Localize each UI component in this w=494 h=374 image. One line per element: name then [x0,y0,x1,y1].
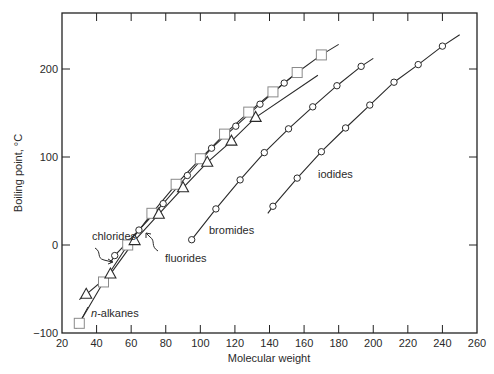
series-line-fluorides [79,75,318,299]
plot-frame [62,13,477,333]
x-tick-label: 180 [329,337,347,349]
triangle-marker [81,288,92,298]
y-tick-label: 200 [40,63,58,75]
circle-marker [310,104,316,110]
label-iodides: iodides [318,168,353,180]
circle-marker [208,145,214,151]
circle-marker [439,43,445,49]
series-lines [76,35,460,329]
square-marker [292,68,302,78]
x-axis-title: Molecular weight [228,352,311,364]
circle-marker [334,83,340,89]
square-marker [220,129,230,139]
x-tick-label: 100 [191,337,209,349]
x-tick-label: 80 [160,337,172,349]
circle-marker [213,206,219,212]
y-tick-label: −100 [33,327,58,339]
square-marker [268,87,278,97]
x-tick-label: 140 [260,337,278,349]
circle-marker [391,79,397,85]
chart-svg: 20406080100120140160180200220240260−1000… [0,0,494,374]
circle-marker [112,252,118,258]
series-line-n-alkanes [76,44,339,328]
y-tick-label: 0 [52,239,58,251]
circle-marker [358,63,364,69]
y-tick-label: 100 [40,151,58,163]
label-bromides: bromides [209,224,255,236]
circle-marker [285,126,291,132]
x-tick-label: 60 [125,337,137,349]
n-alkanes-leader [82,307,88,318]
x-tick-label: 120 [226,337,244,349]
circle-marker [233,123,239,129]
x-tick-label: 260 [468,337,486,349]
circle-marker [318,149,324,155]
series-line-chlorides [110,73,297,263]
fluorides-leader [146,233,158,251]
circle-marker [281,80,287,86]
circle-marker [188,237,194,243]
circle-marker [261,149,267,155]
circle-marker [342,125,348,131]
square-marker [316,50,326,60]
label-nalkanes: n-alkanes [91,307,139,319]
boiling-point-chart: 20406080100120140160180200220240260−1000… [0,0,494,374]
x-tick-label: 40 [90,337,102,349]
circle-marker [136,227,142,233]
square-marker [74,318,84,328]
circle-marker [367,102,373,108]
circle-marker [160,200,166,206]
circle-marker [415,61,421,67]
x-tick-label: 200 [364,337,382,349]
circle-marker [270,203,276,209]
circle-marker [237,177,243,183]
label-chlorides: chlorides [92,230,137,242]
square-marker [244,107,254,117]
circle-marker [257,101,263,107]
y-axis-title: Boiling point, °C [12,134,24,212]
x-tick-label: 220 [399,337,417,349]
label-fluorides: fluorides [165,252,207,264]
x-tick-label: 240 [433,337,451,349]
circle-marker [294,175,300,181]
x-tick-label: 160 [295,337,313,349]
circle-marker [184,172,190,178]
series-line-iodides [268,35,460,214]
